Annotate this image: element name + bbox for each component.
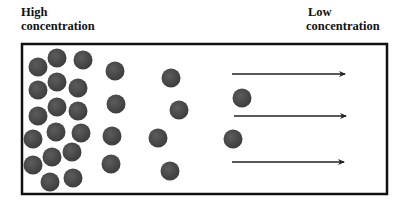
particle xyxy=(149,129,168,148)
particle xyxy=(102,155,121,174)
particle xyxy=(48,73,67,92)
particle xyxy=(47,123,66,142)
particle xyxy=(69,79,88,98)
diffusion-diagram xyxy=(0,0,407,206)
particle xyxy=(48,98,67,117)
particle xyxy=(29,107,48,126)
particle xyxy=(107,95,126,114)
particles-group xyxy=(24,49,252,192)
arrows-group xyxy=(232,74,346,162)
particle xyxy=(24,130,43,149)
particle xyxy=(24,156,43,175)
particle xyxy=(48,49,67,68)
particle xyxy=(233,89,252,108)
particle xyxy=(63,143,82,162)
particle xyxy=(162,69,181,88)
particle xyxy=(29,81,48,100)
particle xyxy=(72,124,91,143)
particle xyxy=(74,51,93,70)
particle xyxy=(103,127,122,146)
particle xyxy=(29,58,48,77)
particle xyxy=(170,101,189,120)
particle xyxy=(43,148,62,167)
particle xyxy=(161,162,180,181)
particle xyxy=(224,130,243,149)
particle xyxy=(106,62,125,81)
particle xyxy=(69,102,88,121)
particle xyxy=(64,169,83,188)
particle xyxy=(41,173,60,192)
